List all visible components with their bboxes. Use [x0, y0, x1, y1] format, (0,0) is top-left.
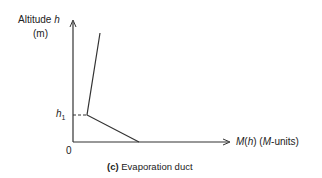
- h1-label: h1: [56, 108, 65, 121]
- evaporation-duct-diagram: [0, 0, 322, 178]
- m-profile-curve: [87, 33, 139, 142]
- y-axis-unit: (m): [33, 28, 48, 39]
- caption: (c) Evaporation duct: [107, 161, 193, 172]
- y-axis-label: Altitude h: [18, 14, 60, 25]
- origin-label: 0: [66, 145, 72, 156]
- x-axis-label: M(h) (M-units): [236, 136, 299, 147]
